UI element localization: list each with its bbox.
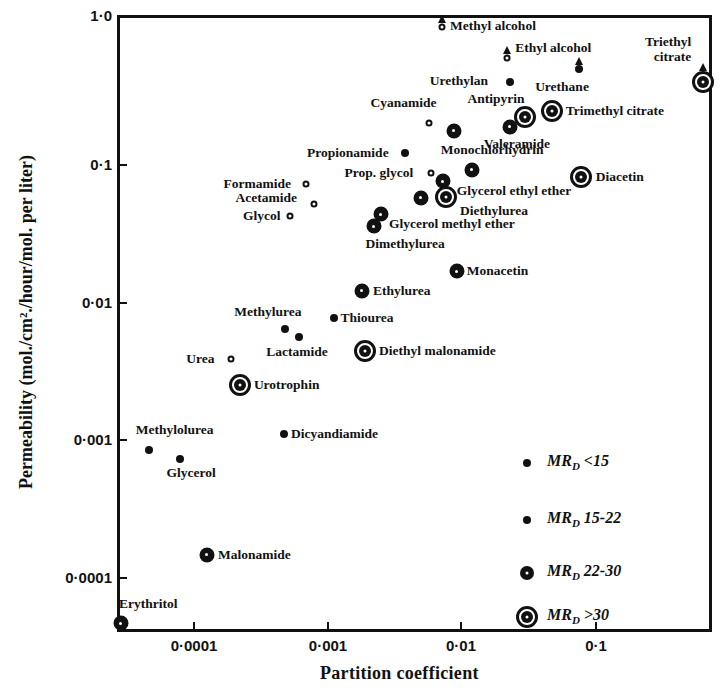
y-tick	[117, 439, 127, 441]
point-label: Thiourea	[341, 310, 394, 325]
point-label: Glycol	[243, 208, 281, 223]
point-label: Dicyandiamide	[291, 426, 378, 441]
data-point-marker	[176, 455, 184, 463]
legend-marker	[516, 606, 538, 628]
data-point-marker	[286, 212, 293, 219]
data-point-marker	[541, 100, 563, 122]
point-label: Antipyrin	[467, 91, 524, 106]
data-point-marker	[366, 219, 381, 234]
point-label: Trimethyl citrate	[566, 103, 664, 118]
data-point-marker	[425, 120, 432, 127]
legend-label: MRD 15-22	[547, 509, 621, 529]
point-label: Diacetin	[596, 169, 644, 184]
x-tick	[460, 622, 462, 632]
data-point-marker	[401, 149, 409, 157]
point-label: Ethyl alcohol	[515, 40, 591, 55]
data-point-marker	[113, 616, 128, 631]
legend-marker	[523, 459, 531, 467]
legend-label: MRD 22-30	[547, 562, 621, 582]
point-label: Diethyl malonamide	[379, 343, 496, 358]
arrow-up-icon	[503, 46, 511, 54]
point-label: Dimethylurea	[366, 236, 445, 251]
point-label: Prop. glycol	[345, 165, 414, 180]
data-point-marker	[228, 356, 235, 363]
point-label: Methylurea	[234, 304, 301, 319]
point-label: Malonamide	[218, 547, 291, 562]
point-label: Erythritol	[119, 596, 178, 611]
point-label: Cyanamide	[371, 95, 437, 110]
point-label: Urotrophin	[254, 377, 320, 392]
y-tick-label: 0·01	[82, 294, 112, 311]
point-label: Formamide	[224, 176, 291, 191]
data-point-marker	[354, 283, 369, 298]
x-tick-label: 0·01	[446, 637, 476, 654]
y-tick-label: 0·001	[74, 431, 112, 448]
data-point-marker	[281, 325, 289, 333]
arrow-up-icon	[438, 15, 446, 23]
point-label: Glycerol ethyl ether	[457, 183, 571, 198]
point-label: Urethane	[535, 79, 589, 94]
x-tick-label: 0·001	[309, 637, 347, 654]
data-point-marker	[449, 264, 464, 279]
data-point-marker	[310, 201, 317, 208]
y-tick-label: 0·0001	[65, 569, 112, 586]
x-axis-label: Partition coefficient	[320, 663, 479, 684]
legend-marker	[523, 516, 531, 524]
y-tick	[117, 302, 127, 304]
data-point-marker	[199, 547, 214, 562]
point-label: Ethylurea	[373, 283, 431, 298]
point-label: Monochlorhydrin	[441, 142, 544, 157]
x-tick-label: 0·0001	[171, 637, 218, 654]
data-point-marker	[435, 186, 457, 208]
data-point-marker	[427, 169, 434, 176]
data-point-marker	[413, 190, 428, 205]
x-tick	[327, 622, 329, 632]
point-label: Triethylcitrate	[645, 34, 691, 64]
arrow-up-icon	[699, 63, 707, 71]
data-point-marker	[145, 446, 153, 454]
data-point-marker	[464, 162, 479, 177]
point-label: Methyl alcohol	[450, 18, 536, 33]
point-label: Lactamide	[266, 344, 328, 359]
data-point-marker	[502, 119, 517, 134]
data-point-marker	[302, 180, 309, 187]
point-label: Urea	[186, 351, 214, 366]
y-tick	[117, 164, 127, 166]
x-tick	[193, 622, 195, 632]
data-point-marker	[514, 106, 536, 128]
data-point-marker	[504, 55, 511, 62]
data-point-marker	[330, 314, 338, 322]
x-tick-label: 0·1	[585, 637, 607, 654]
data-point-marker	[295, 333, 303, 341]
arrow-up-icon	[575, 57, 583, 65]
point-label: Methylolurea	[136, 422, 214, 437]
y-axis-label: Permeability (mol./cm²./hour/mol. per li…	[16, 155, 37, 489]
y-tick-label: 1·0	[90, 7, 112, 24]
data-point-marker	[280, 430, 288, 438]
data-point-marker	[229, 374, 251, 396]
data-point-marker	[575, 65, 583, 73]
point-label: Acetamide	[236, 190, 297, 205]
legend-label: MRD <15	[547, 452, 609, 472]
data-point-marker	[446, 123, 461, 138]
scatter-chart: 1·00·10·010·0010·00010·00010·0010·010·1 …	[0, 0, 722, 691]
y-tick	[117, 577, 127, 579]
legend-label: MRD >30	[547, 606, 609, 626]
legend-marker	[520, 566, 534, 580]
data-point-marker	[354, 340, 376, 362]
point-label: Glycerol methyl ether	[389, 216, 515, 231]
y-tick-label: 0·1	[90, 156, 112, 173]
data-point-marker	[570, 166, 592, 188]
data-point-marker	[439, 23, 446, 30]
point-label: Propionamide	[307, 145, 389, 160]
data-point-marker	[506, 78, 514, 86]
point-label: Urethylan	[430, 73, 488, 88]
point-label: Monacetin	[467, 263, 529, 278]
point-label: Glycerol	[167, 465, 216, 480]
data-point-marker	[692, 71, 714, 93]
